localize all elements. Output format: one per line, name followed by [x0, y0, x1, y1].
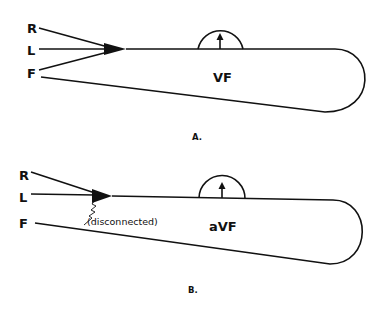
junction-icon: [92, 189, 112, 203]
lead-label-f: F: [27, 66, 36, 81]
panel-label-b: B.: [188, 285, 198, 295]
lead-label-l: L: [19, 190, 27, 205]
panel-a: R L F VF A.: [27, 21, 365, 142]
diagram-canvas: R L F VF A. R L F (disco: [0, 0, 384, 310]
wire-r: [39, 28, 108, 47]
region-outline: [41, 49, 365, 112]
lead-label-l: L: [27, 43, 35, 58]
wire-r: [31, 172, 95, 193]
region-outline: [35, 196, 362, 264]
arrow-up-icon: [219, 182, 226, 198]
panel-label-a: A.: [192, 132, 202, 142]
wire-l: [31, 194, 95, 195]
lead-label-r: R: [27, 21, 37, 36]
region-label-vf: VF: [213, 70, 232, 85]
panel-b: R L F (disconnected) aVF B.: [19, 168, 362, 295]
disconnected-note: (disconnected): [87, 216, 158, 227]
lead-label-f: F: [19, 216, 28, 231]
region-label-avf: aVF: [209, 219, 237, 234]
lead-label-r: R: [19, 168, 29, 183]
junction-icon: [104, 43, 126, 55]
arrow-up-icon: [217, 33, 224, 49]
wire-f-to-junction: [39, 52, 108, 70]
